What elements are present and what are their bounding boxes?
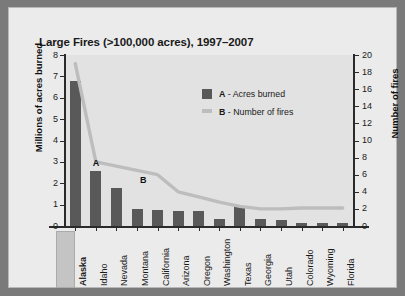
legend-item-b: B - Number of fires: [202, 102, 293, 120]
right-tick-label: 4: [362, 187, 382, 196]
x-tick: [158, 227, 159, 231]
legend-swatch-b-icon: [202, 109, 212, 113]
x-label-colorado: Colorado: [306, 249, 315, 286]
legend-dash-b: -: [228, 107, 231, 117]
x-label-wyoming: Wyoming: [326, 249, 335, 286]
right-tick: [355, 89, 359, 90]
annotation-a: A: [93, 158, 100, 168]
right-tick-label: 14: [362, 102, 382, 111]
bar-florida: [337, 223, 348, 226]
right-tick-label: 18: [362, 68, 382, 77]
x-tick: [96, 227, 97, 231]
right-tick: [355, 192, 359, 193]
alaska-highlight-box: [56, 231, 75, 288]
right-tick-label: 10: [362, 136, 382, 145]
right-tick: [355, 226, 359, 227]
x-label-washington: Washington: [223, 239, 232, 286]
right-tick: [355, 72, 359, 73]
plot-area: [65, 55, 353, 227]
right-tick-label: 20: [362, 51, 382, 60]
legend-key-a: A: [219, 89, 225, 99]
x-tick: [343, 227, 344, 231]
x-tick: [281, 227, 282, 231]
right-tick: [355, 106, 359, 107]
x-tick: [322, 227, 323, 231]
legend-dash-a: -: [228, 89, 231, 99]
bar-utah: [276, 220, 287, 226]
chart-title: Large Fires (>100,000 acres), 1997–2007: [39, 36, 253, 48]
x-tick: [75, 227, 76, 231]
right-tick: [355, 141, 359, 142]
x-label-nevada: Nevada: [120, 255, 129, 286]
x-label-utah: Utah: [285, 267, 294, 286]
x-label-oregon: Oregon: [203, 256, 212, 286]
x-tick: [199, 227, 200, 231]
bar-nevada: [111, 188, 122, 226]
bar-oregon: [193, 211, 204, 226]
legend-label-a: Acres burned: [233, 89, 285, 99]
x-label-florida: Florida: [347, 258, 356, 286]
x-label-texas: Texas: [244, 262, 253, 286]
chart-figure-frame: Large Fires (>100,000 acres), 1997–2007 …: [0, 0, 405, 296]
right-tick: [355, 175, 359, 176]
left-tick-label: 4: [38, 136, 58, 145]
x-label-georgia: Georgia: [264, 254, 273, 286]
right-tick-label: 0: [362, 222, 382, 231]
left-tick-label: 8: [38, 51, 58, 60]
x-tick: [178, 227, 179, 231]
chart-panel: Large Fires (>100,000 acres), 1997–2007 …: [8, 7, 397, 288]
x-axis-line: [49, 226, 369, 228]
x-label-california: California: [162, 248, 171, 286]
bar-texas: [234, 206, 245, 226]
bar-idaho: [90, 171, 101, 226]
bar-montana: [132, 209, 143, 226]
left-tick-label: 7: [38, 72, 58, 81]
x-tick: [137, 227, 138, 231]
left-tick-label: 3: [38, 157, 58, 166]
right-tick: [355, 55, 359, 56]
bar-washington: [214, 219, 225, 226]
left-tick: [60, 98, 64, 99]
left-tick: [60, 76, 64, 77]
legend-item-a: A - Acres burned: [202, 84, 293, 102]
x-label-idaho: Idaho: [100, 263, 109, 286]
left-tick-label: 0: [38, 222, 58, 231]
bar-arizona: [173, 211, 184, 226]
left-tick: [60, 205, 64, 206]
legend-swatch-a-icon: [202, 89, 212, 99]
left-tick-label: 1: [38, 200, 58, 209]
left-tick-label: 5: [38, 115, 58, 124]
legend-label-b: Number of fires: [233, 107, 293, 117]
bar-georgia: [255, 219, 266, 226]
left-tick-label: 6: [38, 93, 58, 102]
right-tick-label: 8: [362, 153, 382, 162]
bar-colorado: [296, 223, 307, 226]
left-tick: [60, 55, 64, 56]
left-tick: [60, 141, 64, 142]
right-tick-label: 6: [362, 170, 382, 179]
bar-wyoming: [317, 223, 328, 226]
x-label-alaska: Alaska: [79, 257, 88, 286]
right-tick-label: 2: [362, 204, 382, 213]
left-tick: [60, 119, 64, 120]
right-axis-title: Number of fires: [389, 44, 400, 164]
x-tick: [116, 227, 117, 231]
right-tick: [355, 123, 359, 124]
right-tick-label: 12: [362, 119, 382, 128]
bar-california: [152, 210, 163, 226]
left-tick-label: 2: [38, 179, 58, 188]
legend-key-b: B: [219, 107, 225, 117]
right-tick: [355, 209, 359, 210]
annotation-b: B: [140, 175, 147, 185]
x-tick: [302, 227, 303, 231]
chart-legend: A - Acres burned B - Number of fires: [202, 84, 293, 120]
right-tick: [355, 158, 359, 159]
x-label-montana: Montana: [141, 251, 150, 286]
right-tick-label: 16: [362, 85, 382, 94]
left-tick: [60, 162, 64, 163]
x-tick: [260, 227, 261, 231]
left-tick: [60, 226, 64, 227]
left-axis-line: [64, 54, 66, 228]
x-tick: [219, 227, 220, 231]
x-label-arizona: Arizona: [182, 255, 191, 286]
